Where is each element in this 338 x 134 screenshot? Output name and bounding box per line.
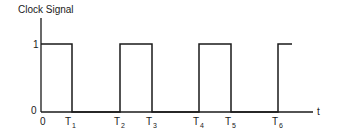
svg-text:3: 3 [153,122,157,129]
x-tick-T5: T 5 [225,116,236,129]
svg-text:T: T [225,116,231,127]
svg-text:1: 1 [72,122,76,129]
svg-text:T: T [146,116,152,127]
x-tick-T6: T 6 [272,116,283,129]
svg-text:2: 2 [121,122,125,129]
svg-text:5: 5 [232,122,236,129]
x-tick-T3: T 3 [146,116,157,129]
x-tick-T1: T 1 [65,116,76,129]
svg-text:6: 6 [279,122,283,129]
x-tick-0: 0 [40,116,46,127]
clock-signal-diagram: Clock Signal 1 0 0 T 1 T 2 T 3 T 4 T 5 T… [0,0,338,134]
x-tick-T2: T 2 [114,116,125,129]
y-tick-1: 1 [33,39,39,50]
svg-text:T: T [65,116,71,127]
x-tick-T4: T 4 [193,116,204,129]
y-axis-title: Clock Signal [18,4,74,15]
clock-waveform [41,44,292,112]
svg-text:T: T [114,116,120,127]
svg-text:T: T [272,116,278,127]
svg-text:T: T [193,116,199,127]
x-axis-label: t [317,106,320,117]
svg-text:4: 4 [200,122,204,129]
y-tick-0: 0 [31,105,37,116]
